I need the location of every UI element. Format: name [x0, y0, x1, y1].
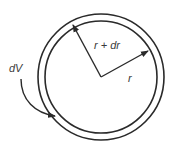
outer-radius-text: r + dr — [94, 39, 120, 51]
volume-element-label: dV — [9, 63, 22, 74]
inner-radius-arrow — [101, 51, 148, 77]
outer-radius-label: r + dr — [94, 40, 120, 51]
inner-radius-label: r — [128, 73, 132, 84]
spherical-shell-diagram — [0, 0, 173, 149]
outer-radius-arrow — [73, 25, 101, 77]
